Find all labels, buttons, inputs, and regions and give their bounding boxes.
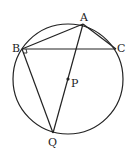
label-c: C [117,42,125,55]
segment-bq [22,49,53,133]
label-b: B [12,42,20,55]
label-q: Q [48,136,57,149]
label-p: P [71,77,79,90]
label-a: A [79,11,89,24]
segment-ac [83,24,116,49]
segment-ab [22,24,83,49]
geometry-diagram: A B C P Q [0,0,130,152]
center-point-p [66,77,69,80]
